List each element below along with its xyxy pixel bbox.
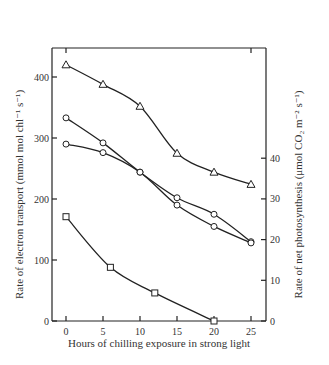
series-circles-upper [63, 115, 254, 245]
x-axis-title: Hours of chilling exposure in strong lig… [68, 337, 250, 349]
square-marker [107, 264, 113, 270]
series-line [66, 118, 251, 242]
circle-marker [211, 223, 217, 229]
circle-marker [100, 150, 106, 156]
series-line [66, 144, 251, 243]
x-tick-label: 20 [209, 326, 219, 337]
y-left-tick-label: 200 [34, 194, 49, 205]
series-line [66, 217, 214, 321]
y-right-tick-label: 0 [270, 316, 275, 327]
series-circles-lower [63, 141, 254, 246]
y-right-tick-label: 30 [270, 193, 280, 204]
y-right-tick-label: 40 [270, 153, 280, 164]
x-tick-label: 10 [135, 326, 145, 337]
series-squares [63, 214, 217, 324]
y-left-tick-label: 400 [34, 72, 49, 83]
axis-labels: 05101520250100200300400010203040Hours of… [13, 72, 305, 350]
series-line [66, 65, 251, 185]
square-marker [63, 214, 69, 220]
triangle-marker [99, 80, 107, 87]
y-right-axis-title: Rate of net photosynthesis (μmol CO₂ m⁻²… [292, 90, 305, 298]
circle-marker [137, 169, 143, 175]
square-marker [152, 290, 158, 296]
y-left-tick-label: 0 [44, 316, 49, 327]
y-right-tick-label: 10 [270, 275, 280, 286]
series-group [62, 61, 255, 324]
x-tick-label: 5 [101, 326, 106, 337]
y-left-tick-label: 100 [34, 255, 49, 266]
series-triangles [62, 61, 255, 188]
circle-marker [63, 115, 69, 121]
x-tick-label: 0 [64, 326, 69, 337]
y-left-axis-title: Rate of electron transport (mmol mol chl… [13, 90, 26, 299]
circle-marker [63, 141, 69, 147]
triangle-marker [62, 61, 70, 68]
y-right-tick-label: 20 [270, 234, 280, 245]
x-tick-label: 15 [172, 326, 182, 337]
line-chart: 05101520250100200300400010203040Hours of… [0, 0, 329, 365]
circle-marker [100, 140, 106, 146]
x-tick-label: 25 [246, 326, 256, 337]
circle-marker [174, 202, 180, 208]
circle-marker [174, 195, 180, 201]
circle-marker [211, 211, 217, 217]
axes [52, 48, 266, 321]
square-marker [211, 318, 217, 324]
circle-marker [248, 240, 254, 246]
y-left-tick-label: 300 [34, 133, 49, 144]
